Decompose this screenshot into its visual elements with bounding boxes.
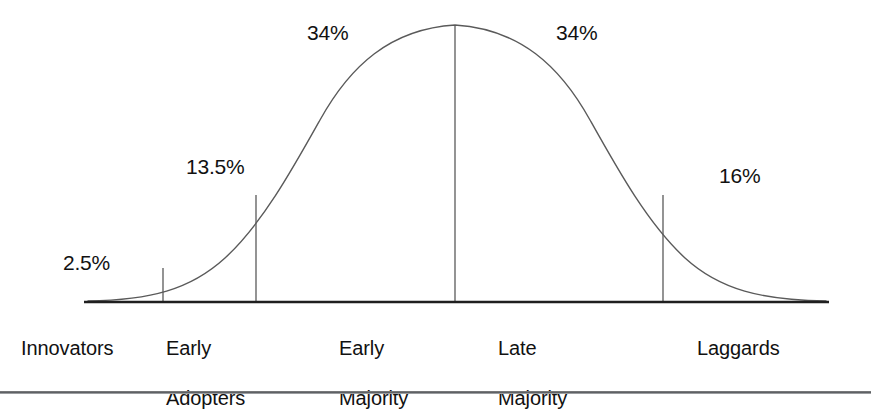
segment-label-laggards-line1: Laggards xyxy=(697,336,780,361)
percent-label-late-majority: 34% xyxy=(556,22,597,43)
segment-label-innovators: Innovators xyxy=(21,311,113,411)
percent-label-laggards: 16% xyxy=(719,165,760,186)
segment-label-late-majority-line1: Late xyxy=(498,336,567,361)
segment-label-late-majority-line2: Majority xyxy=(498,386,567,411)
percent-label-early-adopters: 13.5% xyxy=(186,156,245,177)
segment-label-early-majority-line2: Majority xyxy=(339,386,408,411)
segment-label-laggards: Laggards xyxy=(697,311,780,411)
segment-label-early-adopters-line2: Adopters xyxy=(166,386,245,411)
segment-label-early-majority: Early Majority xyxy=(339,311,408,413)
segment-label-early-adopters-line1: Early xyxy=(166,336,245,361)
segment-label-early-adopters: Early Adopters xyxy=(166,311,245,413)
percent-label-innovators: 2.5% xyxy=(63,252,110,273)
segment-label-early-majority-line1: Early xyxy=(339,336,408,361)
segment-label-innovators-line1: Innovators xyxy=(21,336,113,361)
segment-label-late-majority: Late Majority xyxy=(498,311,567,413)
percent-label-early-majority: 34% xyxy=(307,22,348,43)
page-bottom-rule xyxy=(0,391,871,394)
